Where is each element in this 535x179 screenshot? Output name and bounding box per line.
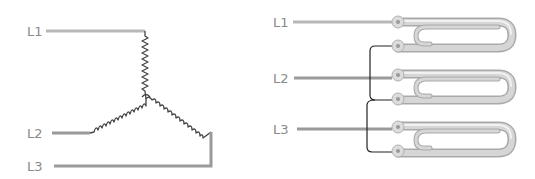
lead-l3 bbox=[54, 132, 211, 166]
jumper-wire-2 bbox=[367, 100, 392, 152]
heater-element-3 bbox=[392, 121, 512, 157]
label-l1-right: L1 bbox=[273, 15, 289, 30]
heater-elements-svg: L1 L2 L3 bbox=[265, 0, 535, 179]
jumper-wire-1 bbox=[370, 46, 392, 100]
heater-element-1 bbox=[392, 16, 512, 52]
label-l2-right: L2 bbox=[273, 71, 289, 86]
coil-l3 bbox=[146, 97, 211, 138]
coil-l2 bbox=[90, 99, 146, 133]
star-schematic: L1 L2 L3 bbox=[0, 0, 265, 179]
star-schematic-svg: L1 L2 L3 bbox=[0, 0, 265, 179]
label-l1: L1 bbox=[27, 24, 43, 39]
coil-l1 bbox=[142, 31, 148, 99]
heater-elements-diagram: L1 L2 L3 bbox=[265, 0, 535, 179]
label-l2: L2 bbox=[27, 126, 43, 141]
heater-element-2 bbox=[392, 69, 512, 105]
label-l3: L3 bbox=[27, 159, 43, 174]
label-l3-right: L3 bbox=[273, 122, 289, 137]
